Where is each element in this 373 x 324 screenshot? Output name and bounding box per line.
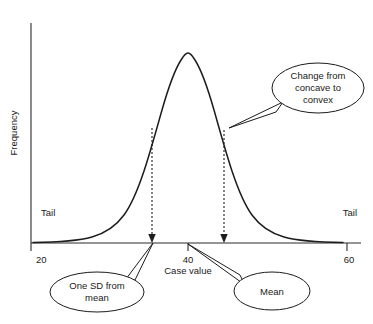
inflection-callout-label-line1: Change from: [291, 70, 346, 81]
inflection-marker: [220, 130, 227, 243]
mean-callout-label: Mean: [260, 286, 284, 297]
inflection-callout[interactable]: Change from concave to convex: [229, 63, 364, 128]
x-axis-label: Case value: [164, 265, 212, 276]
x-tick-label-60: 60: [344, 254, 355, 265]
inflection-callout-label-line3: convex: [303, 94, 333, 105]
sd-marker-arrow-head: [148, 234, 155, 243]
inflection-marker-arrow-head: [220, 234, 227, 243]
mean-callout[interactable]: Mean: [188, 244, 310, 310]
x-tick-label-20: 20: [36, 254, 47, 265]
tail-label-left: Tail: [41, 207, 55, 218]
axes-group: [31, 23, 361, 251]
y-axis-label: Frequency: [8, 110, 19, 155]
inflection-callout-label-line2: concave to: [295, 82, 341, 93]
one-sd-callout-label-line1: One SD from: [69, 280, 125, 291]
one-sd-callout-label-line2: mean: [85, 292, 109, 303]
tail-label-right: Tail: [343, 207, 357, 218]
sd-marker: [148, 128, 155, 243]
one-sd-callout[interactable]: One SD from mean: [50, 243, 153, 312]
x-tick-label-40: 40: [183, 254, 194, 265]
inflection-callout-leader: [229, 102, 283, 128]
normal-distribution-figure: 20 40 60 Case value Frequency Tail Tail …: [0, 0, 373, 324]
